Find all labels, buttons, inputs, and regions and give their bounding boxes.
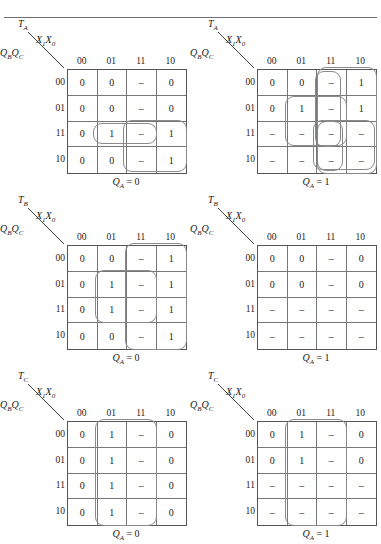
kmap-cell[interactable]: –: [347, 147, 377, 173]
kmap-cell[interactable]: –: [127, 272, 157, 298]
kmap-cell[interactable]: 1: [157, 246, 187, 272]
kmap-cell[interactable]: 0: [68, 147, 98, 173]
kmap-cell[interactable]: –: [317, 147, 347, 173]
kmap-cell[interactable]: –: [288, 122, 318, 148]
kmap-cell[interactable]: 0: [258, 246, 288, 272]
kmap-cell[interactable]: –: [127, 474, 157, 500]
kmap-cell[interactable]: 0: [258, 272, 288, 298]
kmap-cell[interactable]: 1: [98, 499, 128, 525]
kmap-cell[interactable]: –: [317, 246, 347, 272]
kmap-cell[interactable]: 0: [98, 147, 128, 173]
kmap-cell[interactable]: 1: [98, 448, 128, 474]
kmap-cell[interactable]: –: [347, 122, 377, 148]
kmap-cell[interactable]: –: [258, 499, 288, 525]
kmap-cell[interactable]: 0: [68, 246, 98, 272]
kmap-cell[interactable]: –: [317, 422, 347, 448]
kmap-cell[interactable]: 1: [157, 122, 187, 148]
kmap-cell[interactable]: 0: [157, 422, 187, 448]
kmap-cell[interactable]: 0: [157, 96, 187, 122]
kmap-cell[interactable]: –: [288, 298, 318, 324]
kmap-cell[interactable]: 0: [157, 474, 187, 500]
kmap-cell[interactable]: 0: [98, 96, 128, 122]
kmap-cell[interactable]: –: [127, 298, 157, 324]
kmap-cell[interactable]: –: [258, 298, 288, 324]
kmap-cell[interactable]: –: [258, 122, 288, 148]
kmap-cell[interactable]: 1: [98, 122, 128, 148]
kmap-cell[interactable]: –: [127, 122, 157, 148]
kmap-cell[interactable]: –: [127, 96, 157, 122]
kmap-cell[interactable]: 1: [98, 474, 128, 500]
kmap-cell[interactable]: –: [258, 147, 288, 173]
kmap-cell[interactable]: –: [317, 122, 347, 148]
kmap-cell[interactable]: 0: [68, 298, 98, 324]
kmap-cell[interactable]: 0: [98, 70, 128, 96]
kmap-cell[interactable]: 0: [68, 499, 98, 525]
kmap-cell[interactable]: –: [317, 499, 347, 525]
kmap-cell[interactable]: 0: [68, 448, 98, 474]
kmap-cell[interactable]: 1: [157, 272, 187, 298]
kmap-cell[interactable]: 0: [98, 246, 128, 272]
kmap-cell[interactable]: 1: [288, 448, 318, 474]
kmap-cell[interactable]: 0: [258, 422, 288, 448]
kmap-cell[interactable]: 1: [157, 323, 187, 349]
kmap-cell[interactable]: 0: [68, 96, 98, 122]
kmap-cell[interactable]: 1: [98, 272, 128, 298]
caption-equation: = 0: [126, 352, 139, 363]
kmap-cell[interactable]: 0: [347, 246, 377, 272]
kmap-cell[interactable]: –: [347, 474, 377, 500]
kmap-cell[interactable]: 0: [68, 70, 98, 96]
kmap-cell[interactable]: 1: [98, 298, 128, 324]
kmap-cell[interactable]: –: [127, 499, 157, 525]
kmap-cell[interactable]: –: [288, 147, 318, 173]
kmap-cell[interactable]: –: [258, 474, 288, 500]
kmap-tc-qa1: TCX1X0QBQC000111100001111001–001–0––––––…: [196, 372, 381, 544]
kmap-cell[interactable]: –: [347, 298, 377, 324]
kmap-cell[interactable]: –: [127, 448, 157, 474]
kmap-cell[interactable]: 0: [157, 70, 187, 96]
output-var-sub: A: [24, 24, 28, 32]
kmap-cell[interactable]: 0: [258, 96, 288, 122]
kmap-cell[interactable]: –: [347, 323, 377, 349]
kmap-cell[interactable]: –: [317, 448, 347, 474]
kmap-cell[interactable]: –: [127, 323, 157, 349]
kmap-cell[interactable]: 0: [288, 246, 318, 272]
kmap-cell[interactable]: –: [258, 323, 288, 349]
kmap-cell[interactable]: 0: [288, 70, 318, 96]
kmap-cell[interactable]: 0: [288, 272, 318, 298]
kmap-cell[interactable]: –: [127, 70, 157, 96]
kmap-cell[interactable]: –: [347, 499, 377, 525]
kmap-cell[interactable]: –: [127, 147, 157, 173]
kmap-cell[interactable]: 1: [288, 422, 318, 448]
kmap-cell[interactable]: 1: [157, 298, 187, 324]
kmap-cell[interactable]: 0: [68, 422, 98, 448]
kmap-cell[interactable]: 0: [347, 422, 377, 448]
kmap-cell[interactable]: –: [127, 422, 157, 448]
kmap-cell[interactable]: 1: [347, 70, 377, 96]
kmap-cell[interactable]: –: [288, 474, 318, 500]
kmap-cell[interactable]: –: [127, 246, 157, 272]
kmap-cell[interactable]: 0: [258, 70, 288, 96]
kmap-cell[interactable]: 0: [157, 448, 187, 474]
kmap-cell[interactable]: 0: [68, 122, 98, 148]
kmap-cell[interactable]: –: [317, 272, 347, 298]
kmap-cell[interactable]: 0: [68, 272, 98, 298]
kmap-cell[interactable]: –: [288, 499, 318, 525]
kmap-cell[interactable]: –: [317, 474, 347, 500]
kmap-cell[interactable]: 1: [347, 96, 377, 122]
kmap-cell[interactable]: –: [317, 70, 347, 96]
kmap-cell[interactable]: 1: [288, 96, 318, 122]
kmap-row-variable: QBQC: [190, 399, 213, 413]
kmap-cell[interactable]: 0: [68, 323, 98, 349]
kmap-cell[interactable]: –: [317, 323, 347, 349]
kmap-cell[interactable]: 0: [347, 448, 377, 474]
kmap-cell[interactable]: –: [317, 298, 347, 324]
kmap-cell[interactable]: 0: [157, 499, 187, 525]
kmap-cell[interactable]: 0: [98, 323, 128, 349]
kmap-cell[interactable]: –: [317, 96, 347, 122]
kmap-cell[interactable]: 1: [98, 422, 128, 448]
kmap-cell[interactable]: 0: [347, 272, 377, 298]
kmap-cell[interactable]: 0: [68, 474, 98, 500]
kmap-cell[interactable]: 0: [258, 448, 288, 474]
kmap-cell[interactable]: –: [288, 323, 318, 349]
kmap-cell[interactable]: 1: [157, 147, 187, 173]
